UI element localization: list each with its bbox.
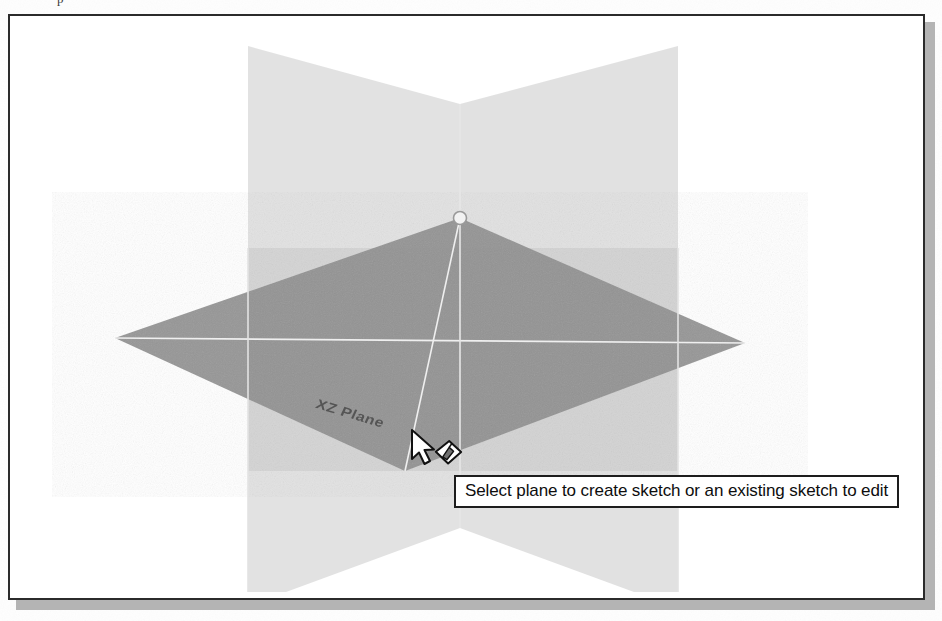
viewport-canvas[interactable]: XZ Plane Select plane to create sketch o…: [10, 16, 923, 598]
plane-yz[interactable]: [248, 46, 460, 592]
axis-lines: [115, 104, 745, 592]
reference-planes-group: [10, 16, 923, 598]
plane-label-xz: XZ Plane: [314, 396, 388, 430]
plane-xz-highlighted[interactable]: [115, 218, 745, 471]
plane-selection-tooltip: Select plane to create sketch or an exis…: [454, 475, 899, 508]
plane-xy[interactable]: [460, 46, 678, 592]
arrow-cursor-with-sketch-badge: [406, 428, 466, 478]
origin-vertex-marker[interactable]: [454, 212, 467, 225]
arrow-cursor-icon: [412, 430, 434, 464]
page-background: p: [0, 0, 942, 621]
plane-overlap-band: [248, 248, 678, 471]
clipped-text-fragment: p: [57, 0, 64, 7]
create-sketch-icon: [434, 439, 463, 466]
cad-3d-viewport[interactable]: XZ Plane Select plane to create sketch o…: [8, 14, 925, 600]
